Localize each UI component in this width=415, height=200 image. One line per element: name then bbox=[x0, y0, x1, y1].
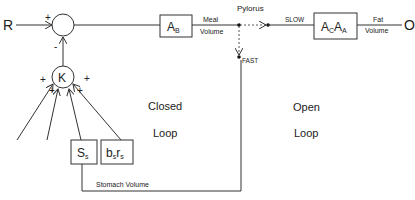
stomach-volume-label: Stomach Volume bbox=[96, 181, 149, 188]
sum-minus-sign: - bbox=[54, 41, 57, 52]
k-input-1 bbox=[17, 84, 53, 140]
fat-label: Fat bbox=[373, 16, 383, 23]
bsrs-block-label: bsrs bbox=[106, 146, 124, 160]
pylorus-label: Pylorus bbox=[237, 4, 264, 13]
ss-block-label: Ss bbox=[77, 146, 89, 160]
summing-junction bbox=[52, 14, 74, 36]
k-sign-4: + bbox=[84, 73, 90, 84]
meal-volume-label: Volume bbox=[200, 28, 223, 35]
output-label: O bbox=[404, 17, 415, 33]
ab-block-label: AB bbox=[167, 20, 180, 34]
k-sign-1: + bbox=[40, 74, 46, 85]
closed-label: Closed bbox=[148, 100, 182, 112]
fast-label: FAST bbox=[242, 57, 258, 64]
closed-loop-label: Loop bbox=[153, 127, 177, 139]
slow-label: SLOW bbox=[285, 16, 305, 23]
open-label: Open bbox=[293, 101, 320, 113]
k-sign-3: + bbox=[77, 85, 83, 96]
acaa-block-label: ACAA bbox=[321, 20, 347, 34]
k-input-3 bbox=[69, 89, 81, 140]
control-diagram: R + - K + + + + Ss bsrs Stomach Volume A… bbox=[0, 0, 415, 200]
open-loop-label: Loop bbox=[294, 127, 318, 139]
fast-node bbox=[237, 55, 241, 59]
stomach-volume-loop bbox=[82, 60, 241, 191]
fat-volume-label: Volume bbox=[365, 27, 388, 34]
meal-label: Meal bbox=[203, 16, 219, 23]
k-input-2 bbox=[47, 89, 58, 140]
sum-plus-sign: + bbox=[45, 12, 51, 23]
controller-label: K bbox=[58, 71, 66, 85]
input-label: R bbox=[3, 17, 13, 33]
k-sign-2: + bbox=[49, 85, 55, 96]
